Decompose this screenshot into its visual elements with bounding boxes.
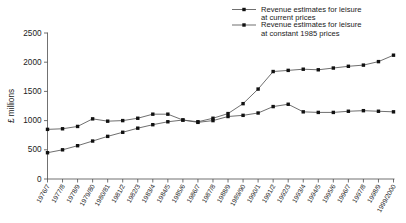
plot-axes	[48, 33, 395, 180]
chart-container: 05001000150020002500 1976/71977/81978/91…	[0, 0, 406, 223]
data-point	[61, 127, 64, 130]
data-point	[241, 102, 244, 105]
y-tick-label: 0	[37, 175, 42, 184]
data-point	[136, 126, 139, 129]
data-point	[287, 103, 290, 106]
data-point	[211, 119, 214, 122]
data-point	[46, 151, 49, 154]
data-point	[317, 68, 320, 71]
data-point	[121, 119, 124, 122]
data-point	[76, 125, 79, 128]
data-point	[362, 63, 365, 66]
y-axis-ticks	[44, 33, 48, 179]
y-tick-label: 500	[28, 145, 42, 154]
legend-label-cont: at constant 1985 prices	[261, 29, 340, 38]
data-point	[106, 135, 109, 138]
legend-swatch-marker	[242, 8, 245, 11]
data-point	[166, 120, 169, 123]
data-point	[287, 69, 290, 72]
x-axis-ticks	[48, 179, 394, 183]
data-point	[271, 70, 274, 73]
data-point	[166, 112, 169, 115]
x-axis-tick-labels: 1976/71977/81978/91979/801980/811981/219…	[35, 183, 397, 214]
data-point	[256, 87, 259, 90]
data-point	[362, 109, 365, 112]
data-point	[91, 117, 94, 120]
series-line-2	[48, 104, 394, 129]
y-tick-label: 2000	[23, 58, 42, 67]
data-point	[392, 53, 395, 56]
data-point	[302, 68, 305, 71]
data-point	[392, 110, 395, 113]
data-point	[91, 139, 94, 142]
y-tick-label: 2500	[23, 29, 42, 38]
data-point	[241, 114, 244, 117]
data-point	[151, 112, 154, 115]
data-point	[226, 112, 229, 115]
data-point	[256, 111, 259, 114]
data-point	[121, 131, 124, 134]
data-point	[332, 66, 335, 69]
data-point	[46, 128, 49, 131]
data-point	[196, 121, 199, 124]
y-axis-title: £ millions	[7, 89, 16, 123]
data-point	[347, 65, 350, 68]
data-point	[76, 144, 79, 147]
data-point	[136, 117, 139, 120]
revenue-line-chart: 05001000150020002500 1976/71977/81978/91…	[0, 0, 406, 223]
series-layer	[46, 53, 395, 154]
data-point	[226, 115, 229, 118]
data-point	[151, 123, 154, 126]
data-point	[61, 148, 64, 151]
data-point	[347, 110, 350, 113]
data-point	[271, 105, 274, 108]
y-tick-label: 1000	[23, 116, 42, 125]
y-axis-tick-labels: 05001000150020002500	[23, 29, 42, 184]
data-point	[106, 119, 109, 122]
chart-legend: Revenue estimates for leisureat current …	[232, 5, 361, 38]
series-line-1	[48, 55, 394, 153]
data-point	[377, 60, 380, 63]
data-point	[332, 111, 335, 114]
y-tick-label: 1500	[23, 87, 42, 96]
series-2	[46, 103, 395, 132]
data-point	[302, 110, 305, 113]
legend-swatch-marker	[242, 23, 245, 26]
data-point	[317, 111, 320, 114]
data-point	[377, 110, 380, 113]
series-1	[46, 53, 395, 154]
data-point	[181, 118, 184, 121]
